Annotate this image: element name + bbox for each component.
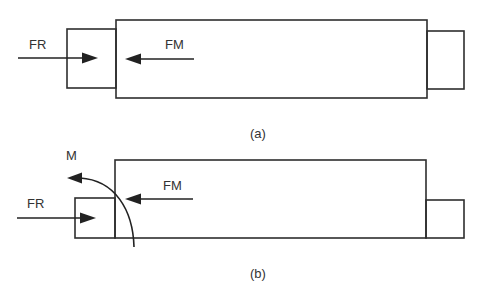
moment-arrow-b: [67, 173, 134, 248]
right-block-a: [427, 31, 464, 89]
fr-arrow-b: [17, 213, 96, 224]
m-label-b: M: [66, 148, 77, 163]
fr-label-b: FR: [27, 196, 44, 211]
caption-b: (b): [250, 266, 266, 281]
arrow-left-icon: [125, 54, 141, 65]
diagram-a: FR FM (a): [18, 20, 464, 141]
fm-label-b: FM: [163, 178, 182, 193]
fm-arrow-b: [125, 194, 193, 205]
fr-arrow-a: [18, 53, 98, 64]
fr-label-a: FR: [29, 37, 46, 52]
curved-arrow-icon: [67, 173, 82, 184]
right-block-b: [426, 200, 464, 238]
diagram-b: FR FM M (b): [17, 148, 464, 281]
fm-label-a: FM: [165, 37, 184, 52]
arrow-right-icon: [80, 213, 96, 224]
fm-arrow-a: [125, 54, 194, 65]
caption-a: (a): [250, 126, 266, 141]
arrow-right-icon: [82, 53, 98, 64]
arrow-left-icon: [125, 194, 141, 205]
force-diagram: FR FM (a) FR FM M (b): [0, 0, 490, 294]
